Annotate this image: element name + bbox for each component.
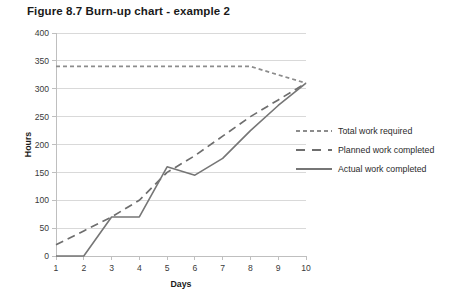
x-tick-label: 9 bbox=[276, 263, 281, 273]
figure-root: Figure 8.7 Burn-up chart - example 2 050… bbox=[0, 0, 464, 299]
series-line-1 bbox=[56, 83, 306, 245]
x-tick-label: 7 bbox=[220, 263, 225, 273]
x-tick-label: 6 bbox=[192, 263, 197, 273]
data-series-group bbox=[56, 66, 306, 256]
x-tick-label: 8 bbox=[248, 263, 253, 273]
y-tick-label: 400 bbox=[35, 28, 50, 38]
y-tick-label: 0 bbox=[44, 251, 49, 261]
x-tick-label: 3 bbox=[109, 263, 114, 273]
y-tick-label: 300 bbox=[35, 84, 50, 94]
burn-up-chart: 05010015020025030035040012345678910DaysH… bbox=[0, 0, 464, 299]
x-tick-label: 5 bbox=[165, 263, 170, 273]
y-tick-label: 100 bbox=[35, 195, 50, 205]
y-tick-label: 50 bbox=[39, 223, 49, 233]
y-axis-title: Hours bbox=[23, 132, 33, 158]
series-line-0 bbox=[56, 66, 306, 83]
series-line-2 bbox=[56, 83, 306, 256]
x-tick-label: 1 bbox=[54, 263, 59, 273]
y-tick-label: 200 bbox=[35, 140, 50, 150]
legend: Total work requiredPlanned work complete… bbox=[296, 126, 434, 174]
y-tick-label: 250 bbox=[35, 112, 50, 122]
x-axis-title: Days bbox=[170, 279, 191, 289]
y-tick-label: 150 bbox=[35, 168, 50, 178]
x-tick-label: 4 bbox=[137, 263, 142, 273]
legend-label-0: Total work required bbox=[338, 126, 412, 136]
x-tick-label: 10 bbox=[301, 263, 311, 273]
x-tick-label: 2 bbox=[81, 263, 86, 273]
y-axis: 050100150200250300350400 bbox=[35, 28, 56, 261]
x-axis: 12345678910 bbox=[54, 256, 311, 273]
legend-label-1: Planned work completed bbox=[338, 145, 434, 155]
legend-label-2: Actual work completed bbox=[338, 164, 427, 174]
y-tick-label: 350 bbox=[35, 56, 50, 66]
